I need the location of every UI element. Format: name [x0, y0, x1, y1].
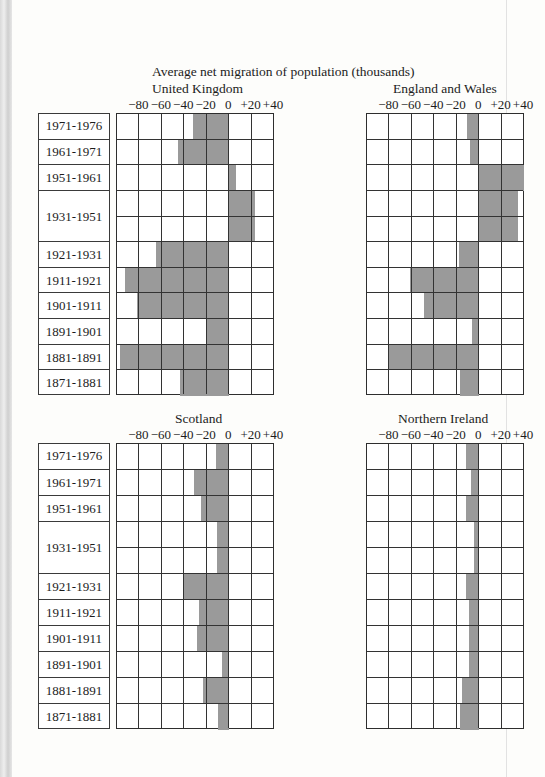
- grid-line-horizontal: [117, 651, 273, 652]
- x-tick-label: +40: [263, 97, 283, 113]
- bar-sc-1921-1931: [184, 574, 229, 600]
- bar-ew-1871-1881: [460, 370, 479, 396]
- bar-ew-1911-1921: [410, 268, 480, 294]
- grid-line-horizontal: [117, 703, 273, 704]
- period-label: 1961-1971: [39, 469, 109, 496]
- x-tick-label: +40: [263, 427, 283, 443]
- x-tick-label: +20: [240, 427, 260, 443]
- bar-ni-1971-1976: [466, 444, 479, 470]
- period-label: 1931-1951: [39, 521, 109, 574]
- x-tick-label: −20: [446, 97, 466, 113]
- chart-title-uk: United Kingdom: [152, 81, 243, 97]
- bar-sc-1971-1976: [216, 444, 229, 470]
- x-tick-label: −20: [196, 97, 216, 113]
- x-tick-label: −20: [446, 427, 466, 443]
- grid-line-horizontal: [367, 190, 523, 191]
- grid-line-vertical: [478, 444, 479, 728]
- period-label: 1961-1971: [39, 139, 109, 166]
- grid-line-horizontal: [367, 292, 523, 293]
- grid-line-horizontal: [367, 625, 523, 626]
- period-label: 1971-1976: [39, 443, 109, 469]
- grid-line-horizontal: [117, 344, 273, 345]
- x-tick-label: −60: [401, 427, 421, 443]
- x-tick-label: −60: [151, 427, 171, 443]
- grid-line-horizontal: [367, 599, 523, 600]
- x-tick-label: −80: [128, 427, 148, 443]
- bar-uk-1951-1961: [229, 165, 236, 191]
- chart-title-ew: England and Wales: [393, 81, 497, 97]
- grid-line-horizontal: [117, 521, 273, 522]
- x-tick-label: +40: [513, 427, 533, 443]
- period-label: 1921-1931: [39, 241, 109, 268]
- period-label: 1911-1921: [39, 267, 109, 294]
- chart-grid-ni: [366, 443, 524, 729]
- bar-ew-1921-1931: [459, 242, 479, 268]
- grid-line-vertical: [478, 114, 479, 394]
- grid-line-vertical: [228, 444, 229, 728]
- chart-title-ni: Northern Ireland: [398, 411, 488, 427]
- period-label: 1951-1961: [39, 164, 109, 191]
- x-tick-label: +20: [490, 427, 510, 443]
- grid-line-horizontal: [367, 344, 523, 345]
- period-label: 1911-1921: [39, 599, 109, 626]
- grid-line-horizontal: [367, 677, 523, 678]
- period-label: 1901-1911: [39, 625, 109, 652]
- x-tick-label: 0: [475, 97, 482, 113]
- x-axis-labels-sc: −80−60−40−200+20+40: [116, 427, 274, 441]
- x-tick-label: 0: [225, 97, 232, 113]
- grid-line-vertical: [138, 444, 139, 728]
- grid-line-horizontal: [117, 139, 273, 140]
- grid-line-vertical: [138, 114, 139, 394]
- grid-line-vertical: [433, 444, 434, 728]
- x-tick-label: +20: [490, 97, 510, 113]
- grid-line-vertical: [183, 114, 184, 394]
- grid-line-vertical: [433, 114, 434, 394]
- grid-line-vertical: [388, 444, 389, 728]
- grid-line-horizontal: [117, 495, 273, 496]
- grid-line-horizontal: [117, 190, 273, 191]
- x-tick-label: +40: [513, 97, 533, 113]
- x-axis-labels-ew: −80−60−40−200+20+40: [366, 97, 524, 111]
- x-tick-label: −80: [378, 97, 398, 113]
- period-label: 1891-1901: [39, 651, 109, 678]
- grid-line-horizontal: [367, 241, 523, 242]
- bar-ew-1931-1951: [479, 191, 518, 242]
- grid-line-horizontal: [117, 241, 273, 242]
- grid-line-horizontal: [367, 573, 523, 574]
- period-label: 1931-1951: [39, 190, 109, 242]
- bar-ew-1951-1961: [479, 165, 524, 191]
- grid-line-vertical: [411, 114, 412, 394]
- period-labels-sc: 1971-19761961-19711951-19611931-19511921…: [38, 443, 110, 729]
- grid-line-horizontal: [367, 521, 523, 522]
- bar-uk-1961-1971: [178, 140, 230, 166]
- grid-line-horizontal: [117, 267, 273, 268]
- x-tick-label: 0: [225, 427, 232, 443]
- period-label: 1921-1931: [39, 573, 109, 600]
- period-label: 1901-1911: [39, 292, 109, 319]
- grid-line-horizontal: [117, 599, 273, 600]
- grid-line-horizontal: [367, 318, 523, 319]
- x-axis-labels-uk: −80−60−40−200+20+40: [116, 97, 274, 111]
- grid-line-horizontal: [367, 369, 523, 370]
- grid-line-horizontal: [117, 573, 273, 574]
- grid-line-horizontal: [117, 369, 273, 370]
- page-margin-band: [0, 0, 12, 777]
- grid-line-horizontal: [367, 495, 523, 496]
- bar-uk-1921-1931: [156, 242, 229, 268]
- period-label: 1881-1891: [39, 344, 109, 371]
- grid-line-horizontal: [367, 267, 523, 268]
- x-tick-label: −20: [196, 427, 216, 443]
- x-axis-labels-ni: −80−60−40−200+20+40: [366, 427, 524, 441]
- grid-line-horizontal: [117, 164, 273, 165]
- grid-line-horizontal: [367, 216, 523, 217]
- grid-line-horizontal: [117, 292, 273, 293]
- figure-title: Average net migration of population (tho…: [152, 64, 415, 80]
- bar-uk-1891-1901: [207, 319, 229, 345]
- grid-line-horizontal: [117, 216, 273, 217]
- x-tick-label: +20: [240, 97, 260, 113]
- period-label: 1951-1961: [39, 495, 109, 522]
- grid-line-vertical: [206, 114, 207, 394]
- chart-title-sc: Scotland: [175, 411, 222, 427]
- x-tick-label: −40: [173, 427, 193, 443]
- bar-ni-1871-1881: [460, 704, 479, 730]
